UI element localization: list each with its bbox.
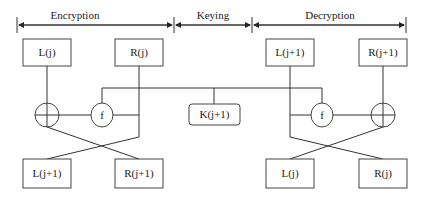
enc-xor-icon xyxy=(35,103,59,127)
svg-text:L(j+1): L(j+1) xyxy=(276,46,305,59)
key-box: K(j+1) xyxy=(189,104,240,125)
enc-f-function: f xyxy=(91,103,113,127)
dec-input-right-box: R(j+1) xyxy=(359,39,407,66)
svg-text:R(j+1): R(j+1) xyxy=(368,46,398,59)
section-header-arrows: Encryption Keying Decryption xyxy=(17,9,406,33)
svg-text:L(j): L(j) xyxy=(38,46,55,59)
keying-header: Keying xyxy=(197,9,230,21)
dec-f-function: f xyxy=(311,103,333,127)
encryption-wiring xyxy=(35,66,322,159)
svg-text:R(j): R(j) xyxy=(130,46,148,59)
feistel-diagram: Encryption Keying Decryption L(j) R(j) xyxy=(0,0,424,200)
enc-input-right-box: R(j) xyxy=(115,39,163,66)
svg-text:L(j+1): L(j+1) xyxy=(33,167,62,180)
encryption-header: Encryption xyxy=(51,9,100,21)
svg-text:R(j+1): R(j+1) xyxy=(124,167,154,180)
svg-text:K(j+1): K(j+1) xyxy=(199,108,229,121)
dec-output-left-box: L(j) xyxy=(266,159,314,188)
svg-text:L(j): L(j) xyxy=(281,167,298,180)
enc-output-left-box: L(j+1) xyxy=(23,159,71,188)
dec-input-left-box: L(j+1) xyxy=(266,39,314,66)
svg-text:R(j): R(j) xyxy=(374,167,392,180)
svg-text:f: f xyxy=(100,109,104,121)
svg-text:f: f xyxy=(320,109,324,121)
enc-input-left-box: L(j) xyxy=(23,39,71,66)
decryption-wiring xyxy=(290,66,383,159)
dec-xor-icon xyxy=(371,103,395,127)
dec-output-right-box: R(j) xyxy=(359,159,407,188)
enc-output-right-box: R(j+1) xyxy=(115,159,163,188)
decryption-header: Decryption xyxy=(305,9,355,21)
